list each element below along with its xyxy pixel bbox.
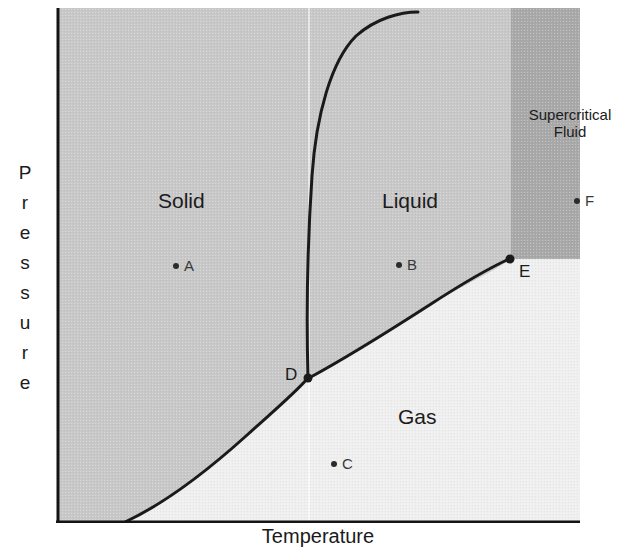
point-a-label: A	[184, 258, 194, 273]
point-dot-icon	[173, 263, 179, 269]
region-label-solid: Solid	[158, 190, 205, 212]
paper-texture	[58, 8, 580, 523]
y-axis-label-letter: s	[20, 278, 30, 308]
region-label-supercritical-line2: Fluid	[512, 123, 628, 140]
y-axis-label-letter: e	[20, 218, 31, 248]
region-label-supercritical-line1: Supercritical	[512, 106, 628, 123]
point-dot-icon	[396, 262, 402, 268]
point-f: F	[574, 193, 594, 208]
y-axis-label-letter: u	[20, 308, 31, 338]
point-c-label: C	[342, 456, 353, 471]
y-axis-label-letter: r	[22, 338, 28, 368]
y-axis-label-letter: r	[22, 188, 28, 218]
y-axis-label-letter: s	[20, 248, 30, 278]
point-e-label: E	[519, 261, 530, 283]
critical-point-marker	[506, 255, 515, 264]
y-axis-label-letter: e	[20, 368, 31, 398]
point-f-label: F	[585, 193, 594, 208]
point-b: B	[396, 257, 417, 272]
point-a: A	[173, 258, 194, 273]
plot-area: Solid Liquid Gas Supercritical Fluid A B…	[56, 6, 580, 523]
point-dot-icon	[331, 461, 337, 467]
region-label-gas: Gas	[398, 406, 437, 428]
y-axis-label-letter: P	[19, 158, 32, 188]
phase-diagram-canvas	[56, 6, 580, 523]
point-c: C	[331, 456, 353, 471]
region-label-liquid: Liquid	[382, 190, 438, 212]
point-d-label: D	[285, 364, 297, 386]
y-axis-label: P r e s s u r e	[8, 158, 42, 398]
triple-point-marker	[304, 374, 313, 383]
x-axis-label: Temperature	[58, 524, 578, 548]
point-b-label: B	[407, 257, 417, 272]
point-dot-icon	[574, 198, 580, 204]
